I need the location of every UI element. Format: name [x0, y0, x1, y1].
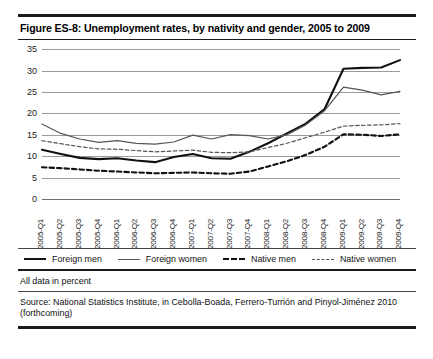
x-axis-tick-label: 2008-Q3 [300, 219, 309, 249]
y-axis-tick-label: 10 [27, 151, 37, 161]
x-axis-tick-label: 2009-Q2 [357, 219, 366, 249]
y-axis-tick-label: 30 [27, 66, 37, 76]
chart-line-foreign-women [42, 87, 400, 144]
legend-item-label: Native women [340, 254, 396, 264]
y-axis-tick-label: 25 [27, 87, 37, 97]
legend-swatch-icon [312, 259, 334, 260]
x-axis-tick-label: 2007-Q4 [243, 219, 252, 249]
x-axis-tick-label: 2008-Q1 [262, 219, 271, 249]
figure-title-rule [18, 39, 416, 41]
x-axis-tick-label: 2006-Q1 [112, 219, 121, 249]
legend-item-label: Foreign men [52, 254, 102, 264]
x-axis-tick-label: 2005-Q1 [36, 219, 45, 249]
y-axis-tick-label: 5 [32, 173, 37, 183]
figure-container: Figure ES-8: Unemployment rates, by nati… [18, 14, 416, 346]
x-axis-tick-label: 2007-Q3 [225, 219, 234, 249]
x-axis-tick-label: 2009-Q3 [375, 219, 384, 249]
chart-legend: Foreign menForeign womenNative menNative… [18, 249, 416, 269]
x-axis-tick-label: 2006-Q2 [130, 219, 139, 249]
legend-item-native-women[interactable]: Native women [312, 254, 396, 264]
chart-x-axis-labels: 2005-Q12005-Q22005-Q32005-Q42006-Q12006-… [42, 203, 400, 249]
chart-plot-area: 05101520253035 2005-Q12005-Q22005-Q32005… [18, 43, 416, 248]
legend-swatch-icon [223, 258, 245, 260]
figure-bottom-rule [18, 326, 416, 329]
legend-item-foreign-women[interactable]: Foreign women [118, 254, 207, 264]
legend-swatch-icon [118, 259, 140, 260]
y-axis-tick-label: 20 [27, 108, 37, 118]
legend-swatch-icon [24, 258, 46, 260]
chart-line-native-women [42, 124, 400, 153]
legend-item-label: Native men [251, 254, 296, 264]
legend-item-native-men[interactable]: Native men [223, 254, 296, 264]
chart-series-layer [42, 49, 400, 199]
y-axis-tick-label: 15 [27, 130, 37, 140]
x-axis-tick-label: 2008-Q4 [319, 219, 328, 249]
chart-x-axis: 0 [42, 199, 400, 200]
figure-title: Figure ES-8: Unemployment rates, by nati… [18, 17, 416, 39]
x-axis-tick-label: 2005-Q2 [55, 219, 64, 249]
y-axis-tick-label: 0 [32, 194, 37, 204]
x-axis-tick-label: 2007-Q2 [206, 219, 215, 249]
x-axis-tick-label: 2005-Q3 [74, 219, 83, 249]
y-axis-tick-label: 35 [27, 44, 37, 54]
figure-source: Source: National Statistics Institute, i… [18, 292, 416, 326]
x-axis-tick-label: 2009-Q4 [394, 219, 403, 249]
chart-line-native-men [42, 134, 400, 173]
legend-item-foreign-men[interactable]: Foreign men [24, 254, 102, 264]
x-axis-tick-label: 2008-Q2 [281, 219, 290, 249]
chart-line-foreign-men [42, 60, 400, 162]
x-axis-tick-label: 2007-Q1 [187, 219, 196, 249]
chart-canvas: 05101520253035 [42, 49, 400, 199]
figure-note: All data in percent [18, 271, 416, 291]
x-axis-tick-label: 2009-Q1 [338, 219, 347, 249]
legend-item-label: Foreign women [146, 254, 207, 264]
x-axis-tick-label: 2006-Q3 [149, 219, 158, 249]
x-axis-tick-label: 2006-Q4 [168, 219, 177, 249]
x-axis-tick-label: 2005-Q4 [93, 219, 102, 249]
